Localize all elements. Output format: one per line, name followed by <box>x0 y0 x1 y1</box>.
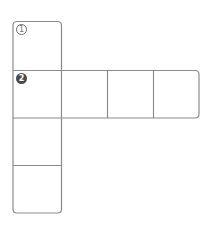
face-middle-4 <box>154 70 199 118</box>
face-middle-left: 2 <box>13 70 62 118</box>
face-top: 1 <box>13 21 62 70</box>
face-middle-2 <box>62 70 108 118</box>
face-label-2: 2 <box>16 73 27 84</box>
face-label-1: 1 <box>16 24 27 35</box>
face-lower-1 <box>13 118 62 165</box>
face-lower-2 <box>13 165 62 213</box>
face-middle-3 <box>108 70 154 118</box>
